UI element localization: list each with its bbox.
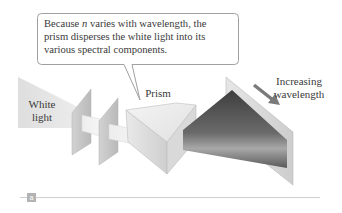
- prism-dispersion-figure: Because n varies with wavelength, the pr…: [0, 0, 342, 213]
- part-label-a: a: [27, 193, 36, 202]
- callout-line-3: various spectral components.: [44, 44, 167, 55]
- callout-line-1b: varies with wavelength, the: [87, 18, 206, 29]
- callout-text: Because n varies with wavelength, the pr…: [44, 17, 236, 56]
- increasing-wavelength-label: Increasing wavelength: [266, 75, 332, 100]
- callout-line-2: prism disperses the white light into its: [44, 31, 205, 42]
- white-light-label: White light: [24, 98, 60, 123]
- prism-label: Prism: [138, 87, 178, 100]
- increasing-label-line-1: Increasing: [266, 75, 332, 88]
- callout-line-1a: Because: [44, 18, 82, 29]
- white-light-label-line-2: light: [24, 111, 60, 124]
- white-light-label-line-1: White: [24, 98, 60, 111]
- increasing-label-line-2: wavelength: [266, 88, 332, 101]
